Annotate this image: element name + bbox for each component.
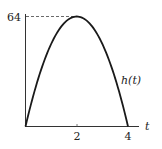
chart: 64 2 4 t h(t) xyxy=(0,0,162,149)
x-tick-label-2: 2 xyxy=(74,130,81,143)
h-curve xyxy=(26,17,129,127)
curve-label: h(t) xyxy=(121,74,141,87)
x-tick-label-4: 4 xyxy=(125,130,132,143)
y-tick-label-64: 64 xyxy=(7,11,21,24)
x-axis-label: t xyxy=(145,120,150,133)
